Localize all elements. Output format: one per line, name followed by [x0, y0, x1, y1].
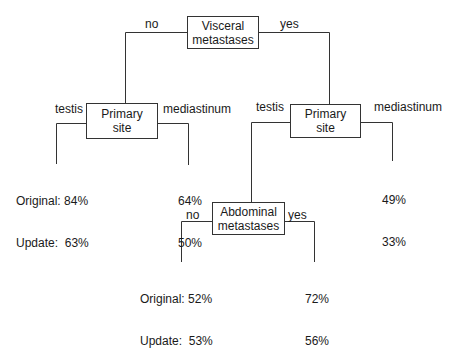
leaf-original-row: Original: 52% — [140, 292, 213, 306]
node-label-line1: Primary — [305, 107, 346, 121]
node-label-line1: Visceral — [202, 19, 244, 33]
update-value: 33% — [382, 235, 406, 249]
leaf-right-mediastinum: 49% 33% — [382, 165, 406, 277]
leaf-left-testis: Original: 84% Update: 63% — [16, 166, 89, 278]
edge-label-root-yes: yes — [280, 17, 299, 31]
original-value: 84% — [64, 194, 88, 208]
edge-left-mediastinum — [157, 124, 189, 166]
update-value: 63% — [65, 236, 89, 250]
original-value: 49% — [382, 193, 406, 207]
leaf-abdominal-no: Original: 52% Update: 53% — [140, 264, 213, 352]
update-value: 53% — [189, 334, 213, 348]
edge-right-mediastinum — [360, 123, 393, 162]
edge-abdominal-yes — [284, 222, 315, 263]
edge-label-root-no: no — [145, 17, 158, 31]
node-label-line2: site — [316, 121, 335, 135]
update-label: Update: — [16, 236, 58, 250]
edge-root-no — [126, 33, 188, 104]
leaf-update-row: Update: 63% — [16, 236, 89, 250]
update-value: 50% — [178, 236, 202, 250]
leaf-left-mediastinum: 64% 50% — [178, 166, 202, 278]
node-label-line1: Primary — [101, 107, 142, 121]
original-label: Original: — [16, 194, 61, 208]
update-value: 56% — [305, 334, 329, 348]
edge-label-left-testis: testis — [55, 102, 83, 116]
original-value: 52% — [188, 292, 212, 306]
edge-root-yes — [258, 33, 330, 105]
leaf-abdominal-yes: 72% 56% — [305, 264, 329, 352]
node-abdominal-metastases: Abdominal metastases — [212, 202, 285, 235]
node-visceral-metastases: Visceral metastases — [187, 16, 259, 49]
leaf-original-row: Original: 84% — [16, 194, 89, 208]
edge-label-right-mediastinum: mediastinum — [374, 100, 442, 114]
node-label-line2: site — [113, 121, 132, 135]
original-value: 72% — [305, 292, 329, 306]
node-primary-site-left: Primary site — [86, 103, 158, 139]
edge-label-abdominal-no: no — [186, 208, 199, 222]
node-label-line2: metastases — [218, 219, 279, 233]
node-label-line1: Abdominal — [220, 205, 277, 219]
edge-label-abdominal-yes: yes — [288, 208, 307, 222]
node-label-line2: metastases — [192, 33, 253, 47]
original-label: Original: — [140, 292, 185, 306]
leaf-update-row: Update: 53% — [140, 334, 213, 348]
edge-right-testis — [252, 123, 291, 203]
edge-label-right-testis: testis — [256, 100, 284, 114]
edge-left-testis — [57, 124, 87, 165]
update-label: Update: — [140, 334, 182, 348]
node-primary-site-right: Primary site — [290, 104, 361, 138]
original-value: 64% — [178, 194, 202, 208]
edge-label-left-mediastinum: mediastinum — [163, 102, 231, 116]
